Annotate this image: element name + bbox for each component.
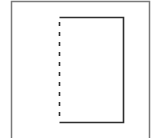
inner-rect-solid-sides (60, 18, 124, 123)
diagram-svg (0, 0, 155, 138)
outer-frame (12, 2, 150, 139)
diagram-canvas (0, 0, 155, 138)
